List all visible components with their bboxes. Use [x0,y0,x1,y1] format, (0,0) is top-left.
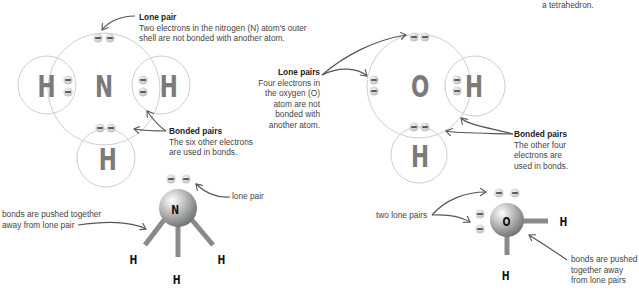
atom-label-n: N [95,69,113,103]
model-label-n: N [171,201,179,217]
label-line: used in bonds. [514,161,568,172]
label-title: Lone pairs [250,67,320,78]
label-title: Bonded pairs [169,126,253,137]
label-line: together away [571,265,637,276]
ammonia-model-bonds-label: bonds are pushed together away from lone… [2,209,101,230]
top-right-caption: a tetrahedron. [542,0,594,11]
label-line: are used in bonds. [169,147,253,158]
water-model-lone-pairs-label: two lone pairs [376,210,427,221]
label-line: bonds are pushed [571,254,637,265]
model-label-h-bottom: H [502,267,510,283]
label-line: the oxygen (O) [250,88,320,99]
ammonia-bonded-pairs-label: Bonded pairs The six other electrons are… [169,126,253,158]
model-label-h-left: H [130,251,138,267]
label-line: another atom. [250,120,320,131]
label-line: shell are not bonded with another atom. [139,33,307,44]
atom-label-h-right: H [160,69,178,103]
model-label-h-bottom: H [173,271,181,287]
label-line: from lone pairs [571,275,637,286]
water-lone-pairs-label: Lone pairs Four electrons in the oxygen … [250,67,320,130]
model-label-o: O [503,213,511,229]
atom-label-h-bottom: H [99,142,117,176]
label-line: away from lone pair [2,220,101,231]
ammonia-model-lone-pair-label: lone pair [232,191,264,202]
label-title: Bonded pairs [514,129,568,140]
label-line: The other four [514,140,568,151]
label-line: bonds are pushed together [2,209,101,220]
label-line: electrons are [514,150,568,161]
label-line: The six other electrons [169,137,253,148]
atom-label-h-bottom: H [411,139,429,173]
atom-label-o: O [411,69,429,103]
model-label-h-right: H [217,251,225,267]
water-model-bonds-label: bonds are pushed together away from lone… [571,254,637,286]
label-title: Lone pair [139,12,307,23]
atom-label-h-right: H [465,69,483,103]
label-line: atom are not [250,99,320,110]
label-line: Two electrons in the nitrogen (N) atom's… [139,23,307,34]
water-bonded-pairs-label: Bonded pairs The other four electrons ar… [514,129,568,171]
ammonia-lone-pair-label: Lone pair Two electrons in the nitrogen … [139,12,307,44]
model-label-h-right: H [559,213,567,229]
label-line: Four electrons in [250,78,320,89]
atom-label-h-left: H [37,69,55,103]
label-line: bonded with [250,109,320,120]
